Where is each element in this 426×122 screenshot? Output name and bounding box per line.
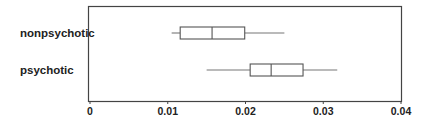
- iqr-box: [250, 64, 303, 76]
- category-label-nonpsychotic: nonpsychotic: [20, 27, 95, 39]
- box-nonpsychotic: [172, 27, 285, 39]
- x-tick-label: 0.01: [158, 105, 179, 117]
- x-tick-label: 0.03: [313, 105, 334, 117]
- x-tick-label: 0: [87, 105, 93, 117]
- x-tick-label: 0.02: [235, 105, 256, 117]
- x-tick-label: 0.04: [391, 105, 412, 117]
- box-psychotic: [207, 64, 338, 76]
- category-label-psychotic: psychotic: [20, 64, 74, 76]
- plot-frame: [89, 7, 402, 102]
- boxplot-chart: nonpsychoticpsychotic 00.010.020.030.04: [0, 0, 426, 122]
